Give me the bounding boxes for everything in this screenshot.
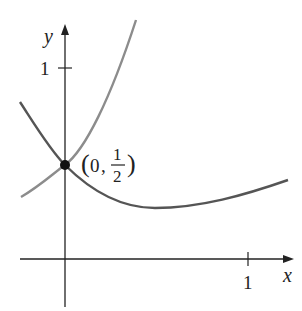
x-tick-label: 1 [243, 272, 253, 293]
svg-text:(: ( [81, 149, 90, 178]
y-axis-arrow-icon [61, 24, 69, 35]
x-axis-label: x [282, 264, 292, 286]
decreasing-curve [20, 102, 288, 208]
svg-text:1: 1 [113, 145, 122, 164]
x-axis-arrow-icon [283, 255, 294, 263]
svg-text:2: 2 [113, 167, 122, 186]
point-label: ( 0 , 1 2 ) [81, 145, 136, 186]
svg-text:,: , [101, 155, 106, 176]
graph-figure: y 1 1 x ( 0 , 1 2 ) [0, 0, 302, 311]
y-axis-label: y [42, 25, 53, 48]
y-tick-label: 1 [40, 58, 50, 79]
intersection-point [60, 160, 70, 170]
svg-text:): ) [127, 149, 136, 178]
svg-text:0: 0 [90, 155, 100, 176]
